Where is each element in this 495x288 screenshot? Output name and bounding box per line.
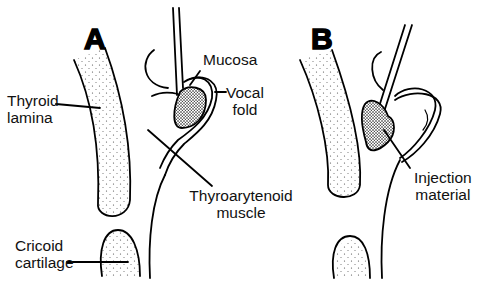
label-line: Thyroarytenoid: [180, 187, 302, 204]
label-line: fold: [226, 101, 264, 118]
injection-material-b: [362, 101, 394, 151]
panel-b-artwork: [300, 25, 441, 278]
label-line: Thyroid: [7, 92, 59, 109]
label-thyroid-lamina: Thyroid lamina: [7, 92, 59, 126]
label-line: Injection: [414, 169, 472, 186]
label-vocal-fold: Vocal fold: [226, 84, 264, 118]
label-cricoid-cartilage: Cricoid cartilage: [15, 237, 74, 271]
injection-material-a: [174, 87, 206, 128]
label-line: material: [414, 186, 472, 203]
label-mucosa: Mucosa: [203, 51, 257, 68]
label-line: cartilage: [15, 254, 74, 271]
label-injection-material: Injection material: [414, 169, 472, 203]
vocal-fold-injection-diagram: A B Thyroid lamina Mucosa Vocal fold Thy…: [0, 0, 495, 288]
label-line: Cricoid: [15, 237, 74, 254]
thyroid-lamina-shape: [74, 48, 130, 216]
panel-letter-b: B: [311, 24, 333, 54]
label-line: muscle: [180, 204, 302, 221]
diagram-artwork: [0, 0, 495, 288]
panel-a-artwork: [56, 8, 226, 278]
cricoid-cartilage-shape: [101, 230, 140, 276]
label-line: lamina: [7, 109, 59, 126]
label-line: Vocal: [226, 84, 264, 101]
panel-letter-a: A: [84, 24, 106, 54]
label-thyroarytenoid-muscle: Thyroarytenoid muscle: [180, 187, 302, 221]
